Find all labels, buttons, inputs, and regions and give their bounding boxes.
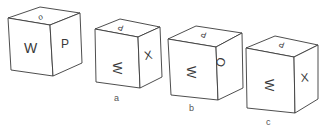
right-letter: P xyxy=(61,37,69,51)
front-letter: W xyxy=(262,79,277,92)
option-cube-c[interactable]: W X P c xyxy=(246,36,318,127)
right-letter: X xyxy=(300,70,309,85)
reference-cube: W P o xyxy=(8,7,82,76)
cube-figure: W P o W X P a W O P b W X P c xyxy=(0,0,327,134)
cube-front-face xyxy=(95,29,140,88)
option-cube-b[interactable]: W O P b xyxy=(168,26,243,113)
front-letter: W xyxy=(184,66,199,79)
option-label: b xyxy=(189,103,194,113)
option-label: c xyxy=(266,117,271,127)
option-cube-a[interactable]: W X P a xyxy=(95,19,162,103)
front-letter: W xyxy=(24,40,38,56)
front-letter: W xyxy=(110,62,125,75)
option-label: a xyxy=(114,93,119,103)
